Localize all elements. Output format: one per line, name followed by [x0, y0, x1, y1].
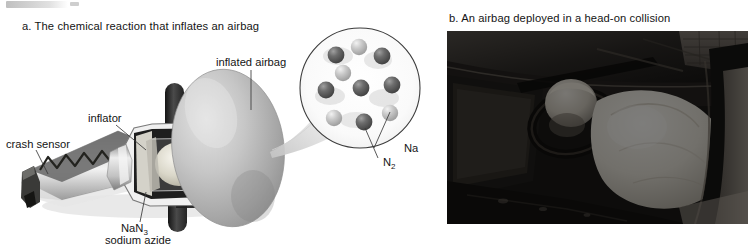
label-inflator: inflator [88, 112, 122, 124]
label-n2: N2 [383, 156, 396, 171]
panel-b-caption: b. An airbag deployed in a head-on colli… [449, 12, 670, 24]
label-sodium-azide: sodium azide [105, 234, 171, 246]
label-crash-sensor: crash sensor [6, 138, 70, 150]
airbag-diagram: crash sensor inflator inflated airbag Na… [0, 0, 448, 252]
photo-content [447, 31, 748, 224]
collision-photograph [447, 31, 748, 224]
figure-root: a. The chemical reaction that inflates a… [0, 0, 748, 252]
label-inflated-airbag: inflated airbag [216, 56, 286, 68]
label-na: Na [404, 142, 419, 154]
molecular-magnifier [300, 28, 420, 148]
